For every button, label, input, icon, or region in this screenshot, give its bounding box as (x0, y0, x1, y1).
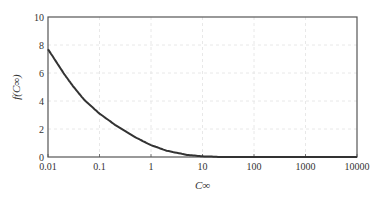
x-tick-label: 0.01 (39, 161, 57, 172)
y-tick-label: 0 (39, 152, 44, 163)
x-tick-label: 0.1 (93, 161, 106, 172)
x-tick-label: 1 (149, 161, 154, 172)
chart: 0.010.11101001000100000246810C∞f(C∞) (0, 0, 383, 198)
y-tick-label: 2 (39, 124, 44, 135)
y-tick-label: 8 (39, 40, 44, 51)
y-tick-label: 10 (34, 12, 44, 23)
y-tick-label: 6 (39, 68, 44, 79)
x-tick-label: 100 (247, 161, 262, 172)
x-tick-label: 1000 (296, 161, 316, 172)
y-axis-label: f(C∞) (10, 74, 23, 100)
x-tick-label: 10000 (345, 161, 370, 172)
x-axis-label: C∞ (195, 179, 210, 191)
y-tick-label: 4 (39, 96, 44, 107)
x-tick-label: 10 (198, 161, 208, 172)
